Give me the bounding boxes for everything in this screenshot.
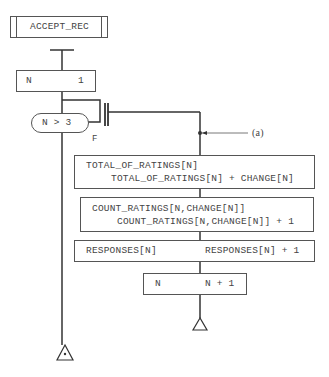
step-3-value: RESPONSES[N] + 1 — [205, 245, 299, 256]
junction-dot — [198, 131, 202, 135]
loop-end-triangle — [193, 318, 207, 330]
false-label: F — [92, 134, 98, 144]
step-2-line1: COUNT_RATINGS[N,CHANGE[N]] — [92, 203, 245, 214]
loop-condition-text: N > 3 — [42, 117, 72, 128]
exit-triangle — [57, 345, 73, 360]
step-1-line2: TOTAL_OF_RATINGS[N] + CHANGE[N] — [111, 173, 294, 184]
module-name: ACCEPT_REC — [30, 21, 89, 32]
step-4-target: N — [155, 278, 161, 289]
init-value: 1 — [78, 75, 84, 86]
step-3-target: RESPONSES[N] — [86, 245, 157, 256]
step-1-line1: TOTAL_OF_RATINGS[N] — [86, 160, 198, 171]
annotation-label: (a) — [252, 127, 264, 138]
step-4-value: N + 1 — [205, 278, 235, 289]
init-target: N — [26, 75, 32, 86]
step-2-line2: COUNT_RATINGS[N,CHANGE[N]] + 1 — [117, 216, 294, 227]
